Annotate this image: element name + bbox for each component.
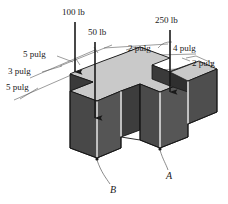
middle-front-face bbox=[121, 84, 140, 137]
marker-point-a bbox=[158, 147, 161, 150]
marker-point-b bbox=[95, 157, 98, 160]
point-label-a: A bbox=[166, 171, 172, 181]
tick-left-a bbox=[76, 59, 80, 65]
leader-5-pulg-top bbox=[57, 56, 73, 62]
dim-label-4-pulg: 4 pulg bbox=[173, 44, 196, 53]
front-right-face bbox=[140, 84, 160, 148]
load-label-50lb: 50 lb bbox=[88, 28, 106, 37]
dim-label-2-pulg-right: 2 pulg bbox=[192, 59, 215, 68]
load-label-250lb: 250 lb bbox=[155, 16, 178, 25]
front-left-face bbox=[70, 91, 97, 158]
dim-label-3-pulg: 3 pulg bbox=[8, 67, 31, 76]
dim-label-2-pulg-top: 2 pulg bbox=[128, 44, 151, 53]
leader-3-pulg bbox=[42, 66, 62, 72]
point-label-b: B bbox=[110, 185, 116, 195]
tick-right-a bbox=[182, 58, 190, 61]
leader-point-b bbox=[97, 160, 110, 184]
load-label-100lb: 100 lb bbox=[62, 8, 85, 17]
dim-label-5-pulg-top-left: 5 pulg bbox=[23, 50, 46, 59]
outline-mid-bottom bbox=[121, 137, 140, 140]
statics-figure: 100 lb 50 lb 250 lb 5 pulg 3 pulg 5 pulg… bbox=[0, 0, 228, 204]
dim-label-5-pulg-lower-left: 5 pulg bbox=[6, 83, 29, 92]
leader-point-a bbox=[160, 150, 168, 170]
right-arm-side-face bbox=[160, 81, 188, 148]
front-left-right-face bbox=[97, 91, 121, 158]
block-diagram-svg bbox=[0, 0, 228, 204]
